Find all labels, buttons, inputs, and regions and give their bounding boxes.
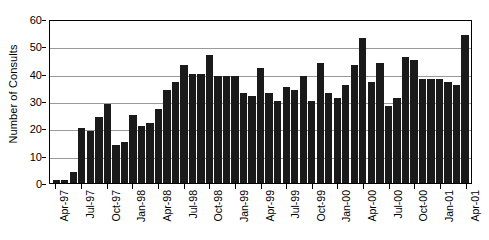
y-axis-title: Number of Consults bbox=[2, 0, 22, 188]
x-tick-label-Jan-98: Jan-98 bbox=[136, 190, 147, 222]
x-tick-label-Jul-97: Jul-97 bbox=[85, 190, 96, 219]
bar bbox=[87, 131, 94, 183]
bar bbox=[385, 106, 392, 183]
bar bbox=[265, 93, 272, 183]
bar bbox=[444, 82, 451, 183]
x-tick-label-Jul-98: Jul-98 bbox=[188, 190, 199, 219]
x-tick-mark-Jul-98 bbox=[184, 184, 185, 189]
x-tick-mark-Oct-97 bbox=[107, 184, 108, 189]
y-tick-mark-50 bbox=[42, 47, 46, 48]
x-axis-tick-marks bbox=[49, 184, 472, 189]
x-tick-label-Apr-01: Apr-01 bbox=[470, 190, 481, 222]
bar bbox=[376, 63, 383, 183]
bar bbox=[274, 101, 281, 183]
x-tick-mark-Jan-00 bbox=[337, 184, 338, 189]
x-tick-label-Apr-00: Apr-00 bbox=[367, 190, 378, 222]
x-tick-label-Apr-98: Apr-98 bbox=[162, 190, 173, 222]
x-tick-mark-Oct-98 bbox=[209, 184, 210, 189]
bar bbox=[300, 76, 307, 183]
x-tick-mark-Apr-01 bbox=[466, 184, 467, 189]
bar bbox=[78, 128, 85, 183]
x-tick-label-Oct-97: Oct-97 bbox=[111, 190, 122, 222]
y-tick-mark-30 bbox=[42, 102, 46, 103]
plot-area bbox=[49, 20, 472, 184]
bar bbox=[334, 98, 341, 183]
x-tick-mark-Apr-99 bbox=[261, 184, 262, 189]
y-axis-tick-labels: 0102030405060 bbox=[20, 14, 46, 189]
x-tick-mark-Oct-00 bbox=[414, 184, 415, 189]
bar bbox=[359, 38, 366, 183]
bar bbox=[453, 85, 460, 183]
bar bbox=[146, 123, 153, 183]
y-tick-mark-60 bbox=[42, 20, 46, 21]
bar bbox=[206, 55, 213, 183]
x-tick-label-Jan-00: Jan-00 bbox=[341, 190, 352, 222]
bar bbox=[104, 104, 111, 183]
bar bbox=[231, 76, 238, 183]
x-tick-label-Jan-01: Jan-01 bbox=[444, 190, 455, 222]
x-tick-mark-Apr-98 bbox=[158, 184, 159, 189]
y-tick-label-30: 30 bbox=[30, 97, 42, 108]
bar bbox=[70, 172, 77, 183]
bar bbox=[393, 98, 400, 183]
x-tick-label-Jul-99: Jul-99 bbox=[290, 190, 301, 219]
bar-chart: Number of Consults 0102030405060 Apr-97J… bbox=[0, 0, 489, 240]
bar bbox=[248, 96, 255, 183]
bar bbox=[95, 117, 102, 183]
y-tick-mark-0 bbox=[42, 184, 46, 185]
bar bbox=[308, 101, 315, 183]
bar bbox=[368, 82, 375, 183]
bar bbox=[402, 57, 409, 183]
x-tick-label-Jul-00: Jul-00 bbox=[393, 190, 404, 219]
x-tick-mark-Jan-99 bbox=[235, 184, 236, 189]
bar bbox=[240, 93, 247, 183]
bar bbox=[291, 90, 298, 183]
y-tick-label-40: 40 bbox=[30, 69, 42, 80]
bar bbox=[223, 76, 230, 183]
bar bbox=[163, 90, 170, 183]
x-tick-mark-Jul-99 bbox=[286, 184, 287, 189]
bar bbox=[351, 65, 358, 183]
y-tick-label-50: 50 bbox=[30, 42, 42, 53]
bar bbox=[129, 115, 136, 183]
x-tick-label-Oct-98: Oct-98 bbox=[213, 190, 224, 222]
bar bbox=[197, 74, 204, 183]
y-tick-mark-10 bbox=[42, 157, 46, 158]
x-tick-mark-Jul-97 bbox=[81, 184, 82, 189]
bar bbox=[436, 79, 443, 183]
x-tick-mark-Apr-97 bbox=[55, 184, 56, 189]
y-axis-title-label: Number of Consults bbox=[6, 44, 18, 143]
bar-series bbox=[50, 21, 471, 183]
bar bbox=[138, 126, 145, 183]
x-tick-label-Oct-99: Oct-99 bbox=[316, 190, 327, 222]
bar bbox=[427, 79, 434, 183]
bar bbox=[214, 76, 221, 183]
y-tick-label-20: 20 bbox=[30, 124, 42, 135]
bar bbox=[342, 85, 349, 183]
bar bbox=[121, 142, 128, 183]
bar bbox=[112, 145, 119, 183]
x-axis-tick-labels: Apr-97Jul-97Oct-97Jan-98Apr-98Jul-98Oct-… bbox=[49, 190, 472, 240]
bar bbox=[180, 65, 187, 183]
y-tick-mark-40 bbox=[42, 75, 46, 76]
bar bbox=[419, 79, 426, 183]
bar bbox=[189, 74, 196, 183]
bar bbox=[410, 60, 417, 183]
x-tick-label-Apr-97: Apr-97 bbox=[59, 190, 70, 222]
bar bbox=[155, 109, 162, 183]
y-tick-mark-20 bbox=[42, 129, 46, 130]
y-tick-label-60: 60 bbox=[30, 15, 42, 26]
bar bbox=[461, 35, 468, 183]
x-tick-mark-Apr-00 bbox=[363, 184, 364, 189]
bar bbox=[257, 68, 264, 183]
x-tick-label-Apr-99: Apr-99 bbox=[265, 190, 276, 222]
bar bbox=[61, 180, 68, 183]
x-tick-mark-Oct-99 bbox=[312, 184, 313, 189]
bar bbox=[317, 63, 324, 183]
x-tick-mark-Jan-01 bbox=[440, 184, 441, 189]
y-tick-label-10: 10 bbox=[30, 151, 42, 162]
x-tick-label-Oct-00: Oct-00 bbox=[418, 190, 429, 222]
x-tick-label-Jan-99: Jan-99 bbox=[239, 190, 250, 222]
bar bbox=[283, 87, 290, 183]
x-tick-mark-Jan-98 bbox=[132, 184, 133, 189]
